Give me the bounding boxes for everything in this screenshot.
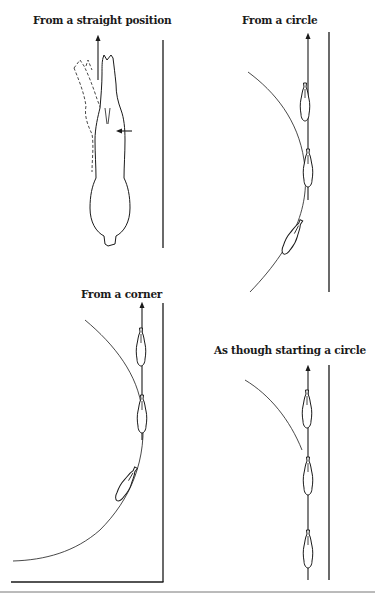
horse-3 xyxy=(113,465,140,503)
panel-straight xyxy=(74,38,163,248)
horse-top-view xyxy=(90,55,130,246)
panel-starting-circle xyxy=(245,365,329,580)
panel-circle xyxy=(248,32,329,292)
circle-track xyxy=(248,72,306,292)
horse-3 xyxy=(303,530,313,568)
horse-2 xyxy=(137,395,147,433)
horse-1 xyxy=(302,390,312,428)
horse-3 xyxy=(279,218,305,256)
ghost-horse-ears xyxy=(86,60,92,70)
corner-track xyxy=(13,320,143,561)
horse-1 xyxy=(136,328,146,366)
diagram-canvas xyxy=(0,0,375,601)
panel-corner xyxy=(11,303,164,582)
horse-2 xyxy=(303,149,313,187)
circle-track xyxy=(245,380,302,450)
horse-2 xyxy=(303,457,313,495)
